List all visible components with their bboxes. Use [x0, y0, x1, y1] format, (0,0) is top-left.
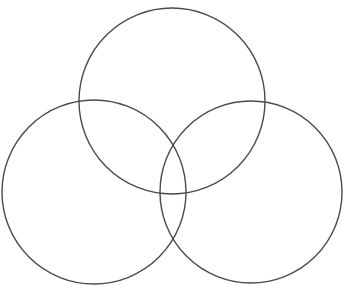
- venn-diagram: [0, 0, 351, 289]
- venn-circle-left: [2, 100, 186, 284]
- venn-diagram-canvas: [0, 0, 351, 289]
- venn-circle-right: [160, 101, 342, 283]
